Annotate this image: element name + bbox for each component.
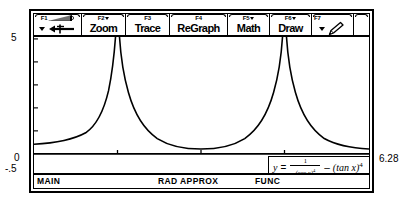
toolbar-button-regraph[interactable]: F4 ReGraph — [170, 14, 228, 35]
toolbar-label-trace: Trace — [135, 22, 161, 34]
formula1-operator: – — [324, 162, 330, 173]
formula-callout: y = 1 (cos x)4 – (tan x)4 and — [268, 156, 369, 173]
status-folder: MAIN — [37, 176, 60, 186]
f5-key-label: F5 — [243, 15, 250, 22]
graph-canvas — [34, 37, 369, 173]
toolbar-label-zoom: Zoom — [90, 22, 118, 34]
status-bar: MAIN RAD APPROX FUNC — [34, 173, 369, 188]
x-axis-label-right: 6.28 — [379, 153, 398, 164]
toolbar: F1 — [34, 14, 369, 37]
graph-plot-area[interactable]: y = 1 (cos x)4 – (tan x)4 and — [34, 37, 369, 173]
y-axis-label-top: 5 — [11, 32, 17, 43]
status-angle-mode: RAD APPROX — [158, 176, 218, 186]
f3-key-label: F3 — [144, 15, 151, 22]
status-graph-mode: FUNC — [255, 176, 280, 186]
f7-dropdown-caret-icon[interactable] — [319, 27, 325, 31]
pencil-icon — [326, 21, 346, 35]
f5-dropdown-caret-icon[interactable] — [250, 17, 254, 20]
toolbar-button-tools[interactable]: F1 — [34, 14, 82, 35]
formula1-y: y — [273, 162, 277, 173]
f6-key-label: F6 — [285, 15, 292, 22]
f4-key-label: F4 — [195, 15, 202, 22]
calculator-frame: F1 — [29, 9, 374, 193]
toolbar-button-trace[interactable]: F3 Trace — [126, 14, 170, 35]
toolbar-label-math: Math — [237, 22, 260, 34]
toolbar-button-blank[interactable] — [354, 14, 369, 35]
formula1-denominator: (cos x)4 — [295, 166, 315, 173]
f2-dropdown-caret-icon[interactable] — [105, 17, 109, 20]
formula1-term: (tan x)4 — [333, 161, 363, 173]
formula-line-1: y = 1 (cos x)4 – (tan x)4 — [273, 159, 367, 173]
f2-key-label: F2 — [98, 15, 105, 22]
f1-dropdown-caret-icon[interactable] — [39, 27, 45, 31]
toolbar-button-pen[interactable]: F7 — [312, 14, 354, 35]
tools-arrow-icon — [46, 23, 76, 34]
series-sec4-minus-tan4 — [34, 37, 369, 149]
toolbar-label-draw: Draw — [278, 22, 303, 34]
f1-key-label: F1 — [41, 15, 48, 22]
formula1-fraction: 1 (cos x)4 — [290, 158, 320, 173]
y-axis-ticks — [34, 39, 38, 131]
toolbar-button-zoom[interactable]: F2 Zoom — [82, 14, 126, 35]
calculator-inner-bezel: F1 — [33, 13, 370, 189]
y-axis-label-zero: 0 — [14, 152, 20, 163]
calculator-screenshot: 5 0 -.5 6.28 F1 — [0, 0, 418, 201]
formula1-numerator: 1 — [304, 158, 307, 165]
toolbar-button-math[interactable]: F5 Math — [228, 14, 270, 35]
tools-hatch-icon — [48, 15, 74, 22]
y-axis-label-bottom: -.5 — [5, 163, 17, 174]
toolbar-label-regraph: ReGraph — [177, 22, 219, 34]
toolbar-button-draw[interactable]: F6 Draw — [270, 14, 312, 35]
f6-dropdown-caret-icon[interactable] — [292, 17, 296, 20]
formula1-equals: = — [280, 162, 286, 173]
